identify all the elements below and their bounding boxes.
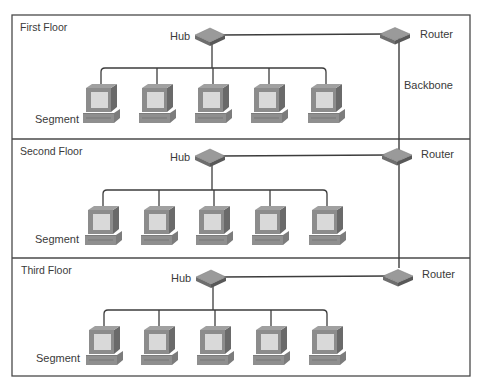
computer-icon <box>308 84 345 123</box>
screen <box>203 92 220 108</box>
computer-icon <box>196 206 233 245</box>
hub-router-link <box>221 276 388 277</box>
router-label-second: Router <box>421 149 454 160</box>
network-diagram: First Floor Second Floor Third Floor Hub… <box>0 0 482 386</box>
hub-label-first: Hub <box>170 31 190 42</box>
computer-icon <box>309 326 346 365</box>
hub-icon <box>196 270 226 288</box>
screen <box>91 92 108 108</box>
backbone-label: Backbone <box>404 80 453 91</box>
computer-icon <box>195 84 232 123</box>
screen <box>317 334 334 350</box>
diagram-canvas <box>0 0 482 386</box>
screen <box>94 334 111 350</box>
computer-icon <box>252 206 289 245</box>
computer-icon <box>141 206 178 245</box>
segment-label-second: Segment <box>35 234 79 245</box>
floor-title-third: Third Floor <box>21 265 72 276</box>
computer-icon <box>309 206 346 245</box>
router-icon <box>380 28 410 45</box>
computer-icon <box>197 326 234 365</box>
floor-3 <box>86 270 413 366</box>
router-icon <box>383 270 413 287</box>
floor-2 <box>85 149 412 246</box>
computer-icon <box>139 84 176 123</box>
computer-icon <box>86 326 123 365</box>
screen <box>260 214 277 230</box>
screen <box>261 334 278 350</box>
hub-router-link <box>220 155 387 156</box>
computer-icon <box>85 206 122 245</box>
computer-icon <box>251 84 288 123</box>
screen <box>259 92 276 108</box>
screen <box>149 214 166 230</box>
floor-title-second: Second Floor <box>20 146 82 157</box>
segment-label-first: Segment <box>35 114 79 125</box>
screen <box>317 214 334 230</box>
segment-label-third: Segment <box>36 353 80 364</box>
screen <box>204 214 221 230</box>
screen <box>149 334 166 350</box>
screen <box>93 214 110 230</box>
screen <box>205 334 222 350</box>
screen <box>316 92 333 108</box>
router-label-first: Router <box>420 29 453 40</box>
computer-icon <box>253 326 290 365</box>
computer-icon <box>83 84 120 123</box>
computer-icon <box>141 326 178 365</box>
router-icon <box>382 149 412 166</box>
floor-title-first: First Floor <box>20 22 67 33</box>
screen <box>147 92 164 108</box>
hub-icon <box>195 149 225 167</box>
building-frame <box>12 15 470 376</box>
hub-label-third: Hub <box>171 273 191 284</box>
floor-1 <box>83 28 410 124</box>
router-label-third: Router <box>422 269 455 280</box>
hub-label-second: Hub <box>170 152 190 163</box>
hub-router-link <box>220 34 385 35</box>
segment-bus <box>103 190 327 206</box>
hub-icon <box>195 28 225 46</box>
